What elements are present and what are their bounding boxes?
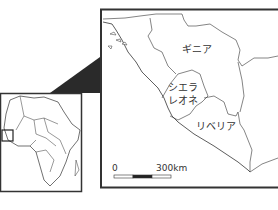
- label-sierra-leone-line2: レオネ: [168, 95, 198, 107]
- label-sierra-leone-line1: シエラ: [168, 82, 198, 94]
- scale-start-label: 0: [112, 162, 118, 174]
- scale-end-label: 300km: [156, 162, 187, 174]
- label-liberia: リベリア: [196, 121, 236, 133]
- label-guinea: ギニア: [182, 44, 212, 56]
- map-graphic: [0, 0, 278, 210]
- scale-bar: [114, 175, 171, 178]
